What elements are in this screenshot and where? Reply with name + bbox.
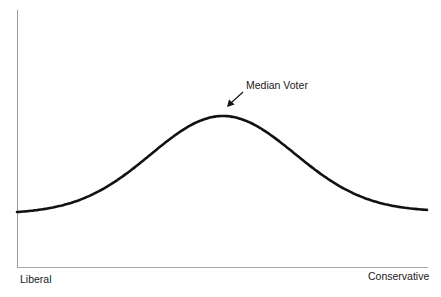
chart-canvas xyxy=(0,0,441,297)
x-axis-label-liberal: Liberal xyxy=(20,273,52,285)
median-voter-arrow-icon xyxy=(227,92,243,107)
median-voter-label: Median Voter xyxy=(246,79,308,91)
x-axis-label-conservative: Conservative xyxy=(368,270,429,282)
bell-curve xyxy=(17,116,427,212)
